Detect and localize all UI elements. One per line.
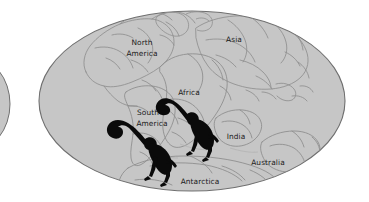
label-africa: Africa [178,88,200,97]
paleogeographic-map-figure: North America Asia Africa South America … [0,0,369,202]
left-edge-globe-fragment [0,57,10,151]
label-australia: Australia [251,158,285,167]
label-asia: Asia [226,35,242,44]
label-south-america-line2: America [136,119,167,128]
label-india: India [227,132,246,141]
map-svg: North America Asia Africa South America … [0,0,369,202]
label-antarctica: Antarctica [181,177,220,186]
label-north-america-line2: America [126,49,157,58]
label-south-america-line1: South [137,108,159,117]
label-north-america-line1: North [131,38,152,47]
